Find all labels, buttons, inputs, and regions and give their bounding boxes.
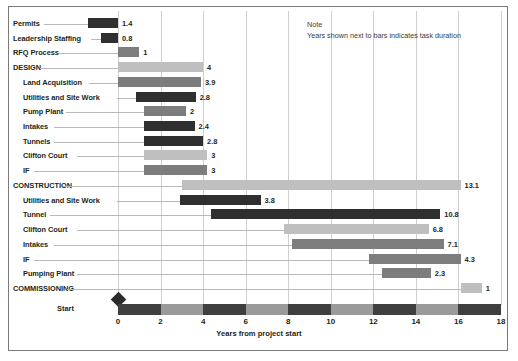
axis-band-segment: [458, 304, 501, 315]
axis-tick-10: 10: [319, 317, 343, 326]
axis-tick-18: 18: [489, 317, 513, 326]
gantt-row-leader-line: [44, 24, 89, 25]
gantt-chart-plot: Permits1.4Leadership Staffing0.8RFQ Proc…: [9, 7, 509, 352]
axis-tick-0: 0: [106, 317, 130, 326]
axis-tick-2: 2: [149, 317, 173, 326]
axis-tick-8: 8: [276, 317, 300, 326]
gantt-row-leader-line: [89, 83, 118, 84]
gantt-row-leader-line: [54, 142, 144, 143]
gantt-row-leader-line: [50, 215, 211, 216]
gantt-row-leader-line: [117, 98, 136, 99]
gantt-bar[interactable]: [182, 180, 461, 190]
note-title: Note: [307, 19, 461, 30]
gantt-bar-value: 1: [486, 279, 490, 298]
gantt-row-leader-line: [40, 68, 118, 69]
axis-band-segment: [118, 304, 161, 315]
gantt-row-leader-line: [59, 53, 118, 54]
axis-band: [118, 304, 501, 315]
axis-tick-14: 14: [404, 317, 428, 326]
gantt-row: COMMISSIONING1: [9, 279, 509, 298]
axis-tick-16: 16: [446, 317, 470, 326]
gantt-bar[interactable]: [211, 209, 441, 219]
gantt-row-leader-line: [34, 260, 369, 261]
gantt-bar[interactable]: [136, 92, 196, 102]
note-text: Years shown next to bars indicates task …: [307, 31, 461, 40]
gantt-bar[interactable]: [144, 121, 195, 131]
gantt-bar[interactable]: [118, 77, 201, 87]
gantt-bar[interactable]: [118, 47, 139, 57]
gantt-bar[interactable]: [144, 150, 208, 160]
gantt-row-leader-line: [63, 186, 181, 187]
gantt-row-leader-line: [34, 171, 144, 172]
gantt-row-leader-line: [67, 289, 460, 290]
gantt-bar[interactable]: [144, 165, 208, 175]
gantt-row-leader-line: [77, 274, 381, 275]
gantt-row-leader-line: [54, 245, 293, 246]
axis-tick-4: 4: [191, 317, 215, 326]
axis-title: Years from project start: [9, 329, 509, 338]
gantt-bar[interactable]: [369, 254, 460, 264]
gantt-row-leader-line: [77, 230, 284, 231]
axis-tick-12: 12: [361, 317, 385, 326]
gantt-row-leader-line: [77, 156, 143, 157]
chart-frame: Permits1.4Leadership Staffing0.8RFQ Proc…: [8, 6, 508, 351]
gantt-row-leader-line: [54, 127, 144, 128]
gantt-bar[interactable]: [144, 106, 187, 116]
gantt-row-leader-line: [91, 39, 101, 40]
gantt-bar[interactable]: [118, 62, 203, 72]
axis-tick-6: 6: [234, 317, 258, 326]
gantt-bar[interactable]: [292, 239, 443, 249]
gantt-bar[interactable]: [101, 33, 118, 43]
axis-band-segment: [373, 304, 416, 315]
axis-start-label: Start: [57, 303, 74, 315]
gantt-row-leader-line: [66, 112, 144, 113]
gantt-bar[interactable]: [88, 18, 118, 28]
gantt-bar[interactable]: [180, 195, 261, 205]
gantt-bar[interactable]: [461, 283, 482, 293]
chart-note: Note Years shown next to bars indicates …: [307, 19, 461, 41]
gantt-bar[interactable]: [144, 136, 204, 146]
axis-band-segment: [288, 304, 331, 315]
axis-band-segment: [203, 304, 246, 315]
gantt-bar[interactable]: [284, 224, 429, 234]
gantt-bar[interactable]: [382, 268, 431, 278]
gantt-row-leader-line: [117, 201, 180, 202]
gantt-row-label: COMMISSIONING: [13, 279, 74, 298]
